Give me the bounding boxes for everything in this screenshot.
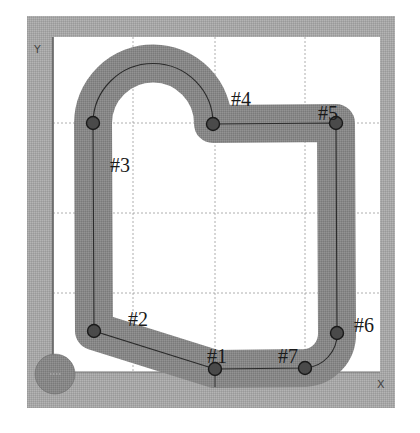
origin-tool-icon bbox=[35, 354, 75, 394]
point-label-7: #7 bbox=[278, 345, 298, 367]
point-label-4: #4 bbox=[231, 88, 251, 110]
point-label-3: #3 bbox=[110, 154, 130, 176]
point-label-2: #2 bbox=[128, 308, 148, 330]
x-axis-label: X bbox=[377, 378, 385, 391]
path-node-6[interactable] bbox=[331, 327, 344, 340]
point-label-1: #1 bbox=[207, 345, 227, 367]
y-axis-label: Y bbox=[33, 43, 41, 56]
toolpath-diagram: #1#2#3#4#5#6#7 Y X bbox=[0, 0, 420, 433]
path-node-2[interactable] bbox=[88, 325, 101, 338]
point-label-6: #6 bbox=[354, 314, 374, 336]
path-node-3[interactable] bbox=[87, 117, 100, 130]
point-label-5: #5 bbox=[318, 102, 338, 124]
path-node-7[interactable] bbox=[299, 362, 312, 375]
path-node-4[interactable] bbox=[207, 118, 220, 131]
